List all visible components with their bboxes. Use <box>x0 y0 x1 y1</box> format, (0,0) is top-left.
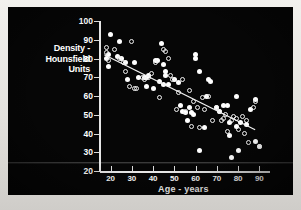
chart-plot-area: 2030405060708090100 2030405060708090 Den… <box>8 7 293 195</box>
regression-line <box>8 7 293 195</box>
screenshot-root: 2030405060708090100 2030405060708090 Den… <box>0 0 301 210</box>
